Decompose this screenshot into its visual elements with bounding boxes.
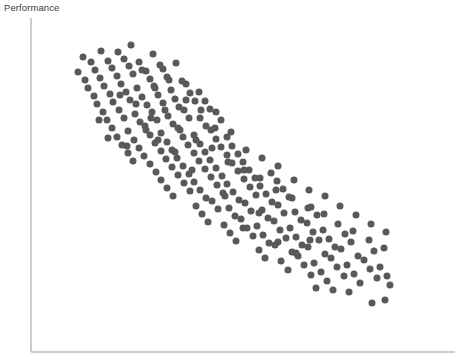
scatter-point bbox=[355, 253, 362, 260]
scatter-point bbox=[121, 115, 128, 122]
scatter-point bbox=[118, 81, 125, 88]
scatter-point bbox=[110, 99, 117, 106]
scatter-point bbox=[262, 255, 269, 262]
scatter-point bbox=[180, 163, 187, 170]
scatter-point bbox=[164, 139, 171, 146]
scatter-point bbox=[134, 85, 141, 92]
scatter-point bbox=[321, 211, 328, 218]
scatter-point bbox=[80, 54, 87, 61]
scatter-point bbox=[128, 42, 135, 49]
scatter-point bbox=[337, 203, 344, 210]
scatter-point bbox=[185, 142, 192, 149]
scatter-point bbox=[260, 232, 267, 239]
scatter-point bbox=[318, 269, 325, 276]
scatter-point bbox=[136, 145, 143, 152]
scatter-point bbox=[173, 60, 180, 67]
scatter-point bbox=[97, 75, 104, 82]
scatter-point bbox=[383, 229, 390, 236]
scatter-point bbox=[256, 210, 263, 217]
scatter-point bbox=[116, 107, 123, 114]
scatter-point bbox=[307, 237, 314, 244]
scatter-point bbox=[193, 137, 200, 144]
scatter-point bbox=[121, 56, 128, 63]
scatter-point bbox=[143, 127, 150, 134]
scatter-point bbox=[230, 189, 237, 196]
scatter-point bbox=[105, 135, 112, 142]
scatter-point bbox=[158, 130, 165, 137]
scatter-point bbox=[367, 266, 374, 273]
scatter-point bbox=[305, 205, 312, 212]
scatter-point bbox=[158, 148, 165, 155]
scatter-point bbox=[241, 167, 248, 174]
scatter-point bbox=[187, 90, 194, 97]
scatter-point bbox=[168, 87, 175, 94]
scatter-point bbox=[94, 101, 101, 108]
scatter-point bbox=[280, 186, 287, 193]
scatter-point bbox=[278, 258, 285, 265]
scatter-point bbox=[196, 89, 203, 96]
scatter-point bbox=[228, 129, 235, 136]
scatter-point bbox=[381, 245, 388, 252]
scatter-point bbox=[366, 237, 373, 244]
scatter-point bbox=[88, 59, 95, 66]
scatter-point bbox=[387, 282, 394, 289]
scatter-point bbox=[127, 97, 134, 104]
scatter-point bbox=[193, 203, 200, 210]
scatter-point bbox=[273, 187, 280, 194]
scatter-point bbox=[310, 229, 317, 236]
scatter-point bbox=[207, 157, 214, 164]
scatter-point bbox=[248, 208, 255, 215]
scatter-point bbox=[191, 179, 198, 186]
scatter-point bbox=[382, 297, 389, 304]
scatter-point bbox=[377, 264, 384, 271]
scatter-point bbox=[192, 98, 199, 105]
scatter-point bbox=[225, 159, 232, 166]
scatter-point bbox=[75, 69, 82, 76]
scatter-point bbox=[256, 247, 263, 254]
scatter-point bbox=[139, 94, 146, 101]
scatter-point bbox=[257, 183, 264, 190]
scatter-point bbox=[361, 257, 368, 264]
scatter-point bbox=[346, 289, 353, 296]
scatter-point bbox=[189, 167, 196, 174]
scatter-point bbox=[328, 255, 335, 262]
scatter-point bbox=[259, 155, 266, 162]
scatter-point bbox=[357, 280, 364, 287]
scatter-point bbox=[353, 212, 360, 219]
scatter-point bbox=[130, 158, 137, 165]
scatter-point bbox=[283, 235, 290, 242]
scatter-point bbox=[141, 153, 148, 160]
scatter-plot-figure: Performance bbox=[0, 0, 455, 363]
scatter-point bbox=[96, 117, 103, 124]
scatter-point bbox=[133, 101, 140, 108]
scatter-point bbox=[368, 221, 375, 228]
scatter-point bbox=[98, 48, 105, 55]
scatter-point bbox=[123, 89, 130, 96]
scatter-point bbox=[199, 211, 206, 218]
scatter-point bbox=[114, 134, 121, 141]
scatter-point bbox=[341, 273, 348, 280]
scatter-point bbox=[342, 231, 349, 238]
scatter-point bbox=[281, 210, 288, 217]
scatter-point bbox=[101, 83, 108, 90]
scatter-point bbox=[183, 97, 190, 104]
scatter-point bbox=[203, 195, 210, 202]
scatter-point bbox=[114, 73, 121, 80]
scatter-point bbox=[197, 115, 204, 122]
scatter-point bbox=[104, 117, 111, 124]
scatter-point bbox=[266, 240, 273, 247]
scatter-point bbox=[242, 200, 249, 207]
scatter-point bbox=[326, 236, 333, 243]
scatter-point bbox=[298, 217, 305, 224]
scatter-point bbox=[125, 128, 132, 135]
scatter-point bbox=[160, 66, 167, 73]
scatter-point bbox=[91, 93, 98, 100]
scatter-point bbox=[374, 275, 381, 282]
scatter-point bbox=[202, 166, 209, 173]
plot-canvas bbox=[0, 0, 455, 363]
scatter-point bbox=[350, 228, 357, 235]
scatter-point bbox=[235, 151, 242, 158]
scatter-point bbox=[332, 244, 339, 251]
scatter-point bbox=[181, 107, 188, 114]
scatter-point bbox=[299, 242, 306, 249]
